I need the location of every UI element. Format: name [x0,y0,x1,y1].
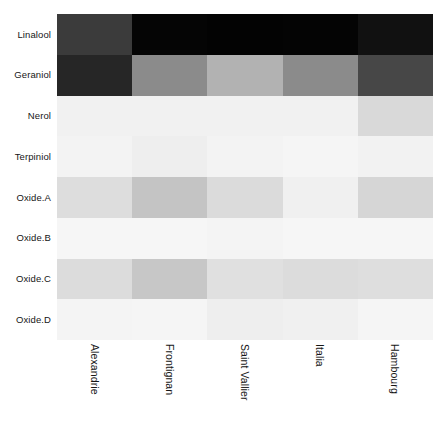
heatmap-cell [57,55,132,96]
heatmap-cell [207,259,282,300]
heatmap-cell [57,136,132,177]
heatmap-cell [207,55,282,96]
heatmap-cell [207,299,282,340]
row-label-oxide-c: Oxide.C [0,259,55,300]
heatmap-cell [132,259,207,300]
heatmap-cell [207,177,282,218]
column-label-axis: Alexandrie Frontignan Saint Vallier Ital… [57,341,433,426]
heatmap-cell [207,14,282,55]
heatmap-cell [57,14,132,55]
heatmap-figure: Linalool Geraniol Nerol Terpiniol Oxide.… [0,0,445,426]
heatmap-cell [358,136,433,177]
heatmap-cell [132,177,207,218]
heatmap-cell [283,299,358,340]
column-label-hambourg: Hambourg [390,344,401,394]
row-label-axis: Linalool Geraniol Nerol Terpiniol Oxide.… [0,14,55,340]
row-label-linalool: Linalool [0,14,55,55]
heatmap-cell [132,96,207,137]
heatmap-cell [283,136,358,177]
row-label-oxide-d: Oxide.D [0,299,55,340]
heatmap-cell [358,14,433,55]
heatmap-cell [57,259,132,300]
heatmap-grid [57,14,433,340]
column-label-saint-vallier: Saint Vallier [240,344,251,401]
row-label-oxide-b: Oxide.B [0,218,55,259]
heatmap-cell [283,177,358,218]
heatmap-cell [358,259,433,300]
heatmap-cell [57,218,132,259]
heatmap-cell [132,299,207,340]
column-label-cell: Italia [283,341,358,426]
row-label-terpiniol: Terpiniol [0,136,55,177]
heatmap-cell [132,14,207,55]
heatmap-cell [207,218,282,259]
heatmap-cell [358,96,433,137]
column-label-cell: Saint Vallier [207,341,282,426]
heatmap-cell [358,299,433,340]
heatmap-cell [358,55,433,96]
column-label-frontignan: Frontignan [165,344,176,395]
heatmap-cell [57,96,132,137]
column-label-cell: Alexandrie [57,341,132,426]
heatmap-cell [132,218,207,259]
heatmap-cell [132,136,207,177]
heatmap-cell [358,177,433,218]
heatmap-cell [57,177,132,218]
heatmap-cell [283,14,358,55]
heatmap-cell [283,218,358,259]
heatmap-cell [132,55,207,96]
column-label-alexandrie: Alexandrie [89,344,100,395]
heatmap-cell [207,136,282,177]
heatmap-cell [358,218,433,259]
heatmap-cell [283,96,358,137]
column-label-cell: Hambourg [358,341,433,426]
row-label-oxide-a: Oxide.A [0,177,55,218]
column-label-cell: Frontignan [132,341,207,426]
heatmap-cell [283,55,358,96]
column-label-italia: Italia [315,344,326,367]
heatmap-cell [57,299,132,340]
row-label-nerol: Nerol [0,96,55,137]
row-label-geraniol: Geraniol [0,55,55,96]
heatmap-cell [283,259,358,300]
heatmap-cell [207,96,282,137]
